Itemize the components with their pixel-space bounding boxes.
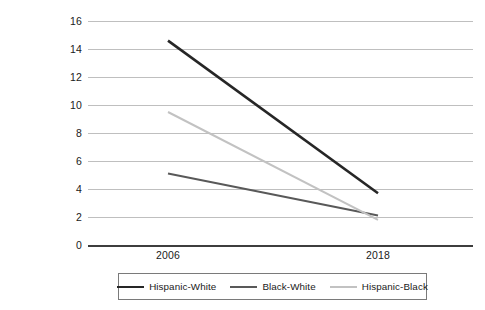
- legend-item: Hispanic-Black: [330, 281, 428, 292]
- legend-item: Hispanic-White: [117, 281, 216, 292]
- series-line: [168, 174, 378, 216]
- legend-swatch-icon: [330, 286, 357, 288]
- y-axis-tick-label: 10: [42, 99, 82, 111]
- legend-swatch-icon: [230, 286, 257, 288]
- y-axis-tick-labels: 0246810121416: [38, 21, 82, 245]
- y-axis-tick-label: 16: [42, 15, 82, 27]
- y-axis-tick-label: 4: [42, 183, 82, 195]
- legend-label: Hispanic-White: [149, 281, 216, 292]
- y-axis-tick-label: 2: [42, 211, 82, 223]
- y-axis-tick-label: 8: [42, 127, 82, 139]
- legend-label: Black-White: [262, 281, 315, 292]
- plot-area: [88, 21, 473, 245]
- x-axis-line: [88, 245, 473, 247]
- legend-label: Hispanic-Black: [362, 281, 428, 292]
- line-chart: Percent not currently in school and have…: [0, 0, 485, 310]
- y-axis-tick-label: 14: [42, 43, 82, 55]
- y-axis-tick-label: 6: [42, 155, 82, 167]
- series-line: [168, 112, 378, 220]
- x-axis-tick-labels: 20062018: [88, 249, 473, 267]
- chart-legend: Hispanic-WhiteBlack-WhiteHispanic-Black: [118, 273, 427, 300]
- legend-item: Black-White: [230, 281, 315, 292]
- y-axis-tick-label: 12: [42, 71, 82, 83]
- legend-swatch-icon: [117, 286, 144, 288]
- x-axis-tick-label: 2018: [343, 249, 413, 261]
- series-lines: [88, 21, 473, 245]
- y-axis-tick-label: 0: [42, 239, 82, 251]
- series-line: [168, 41, 378, 194]
- x-axis-tick-label: 2006: [133, 249, 203, 261]
